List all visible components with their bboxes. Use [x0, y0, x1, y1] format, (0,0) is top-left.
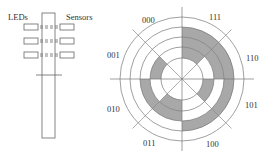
code-strip: [42, 13, 55, 138]
sensors-label: Sensors: [66, 12, 92, 22]
sector-label-100: 100: [206, 139, 219, 149]
sector-label-011: 011: [143, 138, 155, 148]
sector-label-110: 110: [246, 53, 258, 63]
sector-label-111: 111: [209, 12, 221, 22]
code-disk: [110, 7, 254, 151]
sector-label-101: 101: [245, 100, 258, 110]
sector-label-010: 010: [107, 104, 120, 114]
sensors: [60, 24, 74, 58]
sector-label-001: 001: [107, 50, 120, 60]
leds-label: LEDs: [8, 12, 28, 22]
led-sensor-diagram: [24, 13, 74, 138]
encoder-figure: LEDs Sensors 111 110 101 100 011 010 001…: [0, 0, 270, 157]
led-emitters: [24, 24, 38, 58]
sector-label-000: 000: [142, 15, 155, 25]
